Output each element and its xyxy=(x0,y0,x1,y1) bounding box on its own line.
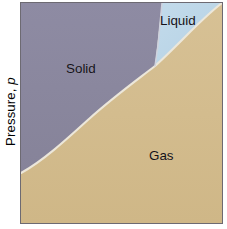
y-axis-label-symbol: p xyxy=(2,78,17,85)
phase-diagram-svg xyxy=(21,3,222,223)
phase-diagram-figure: Pressure, p xyxy=(0,0,227,229)
y-axis-label-text: Pressure, xyxy=(2,85,17,146)
y-axis-label: Pressure, p xyxy=(3,78,16,147)
plot-area xyxy=(20,2,223,224)
region-label-solid: Solid xyxy=(66,62,96,75)
region-label-gas: Gas xyxy=(149,149,174,162)
region-label-liquid: Liquid xyxy=(160,14,196,27)
y-axis-label-container: Pressure, p xyxy=(0,0,20,224)
